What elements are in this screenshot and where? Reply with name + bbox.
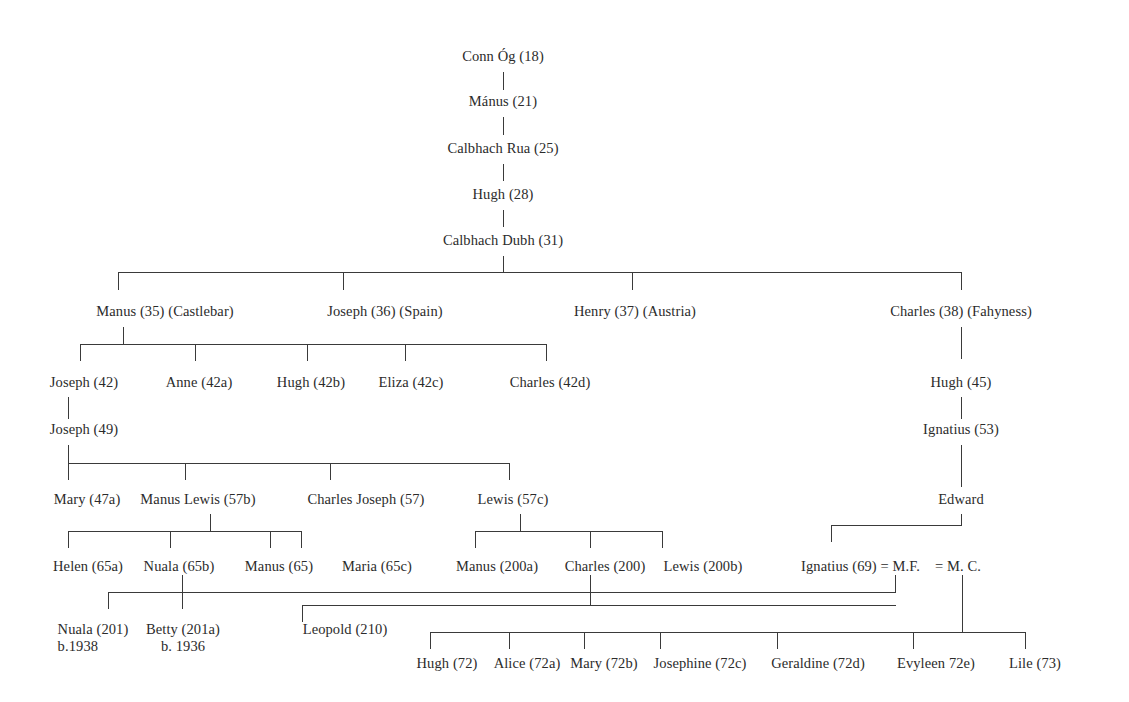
- node-calbhach-rua-25: Calbhach Rua (25): [447, 140, 558, 157]
- node-manus-lewis-57b: Manus Lewis (57b): [140, 491, 255, 508]
- drop-to-lile-73: [1025, 632, 1026, 649]
- connector-manus-to-calbhach-rua: [503, 117, 504, 135]
- node-anne-42a: Anne (42a): [166, 374, 233, 391]
- connector-calbhach-rua-to-hugh: [503, 164, 504, 181]
- node-hugh-28: Hugh (28): [473, 186, 534, 203]
- drop-to-leopold-210: [302, 605, 303, 622]
- node-label: Helen (65a): [53, 558, 123, 574]
- drop-to-mary-72b: [584, 632, 585, 649]
- node-lewis-57c: Lewis (57c): [478, 491, 549, 508]
- drop-to-helen-65a: [68, 531, 69, 548]
- drop-to-manus-35: [118, 272, 119, 290]
- node-label: Ignatius (53): [923, 421, 999, 437]
- long-bus-charles200-to-leopold: [302, 605, 896, 606]
- node-leopold-210: Leopold (210): [303, 621, 388, 638]
- node-edward: Edward: [938, 491, 984, 508]
- sibling-bus-charles-joseph57-children: [68, 531, 301, 532]
- connector-ignatius53-to-edward: [961, 445, 962, 487]
- drop-to-manus-lewis-57b: [185, 463, 186, 480]
- node-label: Nuala (65b): [144, 558, 215, 574]
- drop-to-manus-200a: [475, 531, 476, 548]
- node-lewis-200b: Lewis (200b): [664, 558, 743, 575]
- drop-to-mary-47a: [68, 463, 69, 480]
- node-nuala-65b: Nuala (65b): [144, 558, 215, 575]
- node-label: Manus (65): [245, 558, 313, 574]
- node-ignatius-53: Ignatius (53): [923, 421, 999, 438]
- connector-ignatius69-down: [895, 575, 896, 592]
- node-geraldine-72d: Geraldine (72d): [771, 655, 865, 672]
- drop-to-nuala-65b: [170, 531, 171, 548]
- node-label: Henry (37) (Austria): [574, 303, 696, 319]
- node-manus-65: Manus (65): [245, 558, 313, 575]
- family-tree-diagram: Conn Óg (18) Mánus (21) Calbhach Rua (25…: [0, 0, 1129, 702]
- node-charles-38: Charles (38) (Fahyness): [890, 303, 1032, 320]
- node-label: Leopold (210): [303, 621, 388, 637]
- drop-to-maria-65c: [301, 531, 302, 548]
- connector-manus35-to-bus: [123, 327, 124, 344]
- drop-to-charles-38: [961, 272, 962, 290]
- node-label: Geraldine (72d): [771, 655, 865, 671]
- node-birth-year: b. 1936: [146, 638, 220, 655]
- connector-calbhach-dubh-to-bus: [503, 256, 504, 272]
- node-label: Manus Lewis (57b): [140, 491, 255, 507]
- node-calbhach-dubh-31: Calbhach Dubh (31): [443, 232, 563, 249]
- sibling-bus-gen6: [118, 272, 961, 273]
- node-betty-201a: Betty (201a) b. 1936: [146, 621, 220, 655]
- drop-to-joseph-36: [343, 272, 344, 290]
- connector-charles-joseph57-to-bus: [210, 514, 211, 531]
- drop-to-joseph-42: [80, 344, 81, 361]
- node-label: Nuala (201): [58, 621, 129, 637]
- drop-to-evyleen-72e: [913, 632, 914, 649]
- drop-to-nuala-201: [108, 592, 109, 609]
- node-joseph-36: Joseph (36) (Spain): [327, 303, 442, 320]
- node-label: Lewis (57c): [478, 491, 549, 507]
- drop-to-geraldine-72d: [777, 632, 778, 649]
- node-hugh-72: Hugh (72): [417, 655, 478, 672]
- drop-to-anne-42a: [195, 344, 196, 361]
- node-label: Anne (42a): [166, 374, 233, 390]
- node-manus-21: Mánus (21): [469, 93, 537, 110]
- node-label: Charles (42d): [510, 374, 591, 390]
- connector-mc-to-bottom-bus: [962, 575, 963, 632]
- node-mary-72b: Mary (72b): [570, 655, 637, 672]
- connector-edward-down: [961, 514, 962, 525]
- node-label: Evyleen 72e): [897, 655, 975, 671]
- drop-to-charles-42d: [546, 344, 547, 361]
- node-label: Lile (73): [1009, 655, 1061, 671]
- drop-to-eliza-42c: [405, 344, 406, 361]
- drop-to-lewis-200b: [662, 531, 663, 548]
- node-maria-65c: Maria (65c): [342, 558, 412, 575]
- node-birth-year: b.1938: [58, 638, 129, 655]
- node-alice-72a: Alice (72a): [494, 655, 561, 672]
- node-label: Charles Joseph (57): [307, 491, 424, 507]
- sibling-bus-mc-children: [430, 632, 1025, 633]
- drop-to-alice-72a: [509, 632, 510, 649]
- node-nuala-201: Nuala (201) b.1938: [58, 621, 129, 655]
- node-label: Mary (47a): [54, 491, 121, 507]
- node-lile-73: Lile (73): [1009, 655, 1061, 672]
- connector-edward-to-ignatius69: [831, 525, 962, 526]
- node-label: Hugh (42b): [277, 374, 345, 390]
- connector-charles38-to-hugh45: [961, 327, 962, 359]
- node-josephine-72c: Josephine (72c): [654, 655, 747, 672]
- node-label: Conn Óg (18): [462, 48, 544, 64]
- node-mc-marriage: = M. C.: [935, 558, 981, 575]
- node-conn-og: Conn Óg (18): [462, 48, 544, 65]
- node-hugh-42b: Hugh (42b): [277, 374, 345, 391]
- node-ignatius-69-marriage: Ignatius (69) = M.F.: [801, 558, 920, 575]
- node-charles-joseph-57: Charles Joseph (57): [307, 491, 424, 508]
- connector-hugh-to-calbhach-dubh: [503, 210, 504, 227]
- node-label: Charles (38) (Fahyness): [890, 303, 1032, 319]
- node-label: Betty (201a): [146, 621, 220, 637]
- sibling-bus-manus35-children: [80, 344, 546, 345]
- drop-to-manus-65: [270, 531, 271, 548]
- node-label: Mary (72b): [570, 655, 637, 671]
- connector-hugh45-to-ignatius53: [961, 397, 962, 419]
- node-label: Calbhach Rua (25): [447, 140, 558, 156]
- sibling-bus-joseph49-children: [68, 463, 509, 464]
- long-bus-ignatius69-to-left: [108, 592, 896, 593]
- node-helen-65a: Helen (65a): [53, 558, 123, 575]
- drop-to-ignatius-69: [831, 525, 832, 542]
- node-label: Joseph (42): [50, 374, 118, 390]
- drop-to-henry-37: [632, 272, 633, 290]
